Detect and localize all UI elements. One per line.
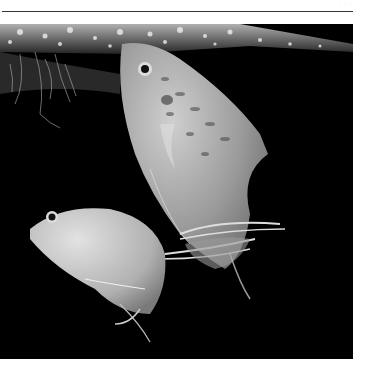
fish-photo <box>0 24 353 359</box>
horizontal-rule <box>2 11 353 12</box>
page-header-text: · · · <box>339 0 353 6</box>
photo-illustration <box>0 24 353 359</box>
